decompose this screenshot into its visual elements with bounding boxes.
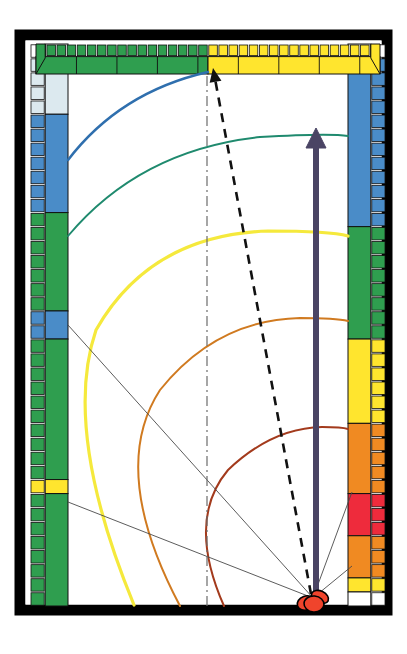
scale-tick-cell [372, 256, 385, 268]
scale-tick-cell [372, 73, 385, 85]
scale-tick-cell [31, 508, 44, 520]
scale-tick-cell [290, 45, 299, 56]
scale-tick-cell [199, 45, 208, 56]
scale-tick-cell [31, 480, 44, 492]
scale-tick-cell [372, 354, 385, 366]
scale-tick-cell [31, 115, 44, 127]
scale-tick-cell [372, 171, 385, 183]
scale-tick-cell [31, 129, 44, 141]
scale-tick-cell [372, 185, 385, 197]
scale-tick-cell [372, 494, 385, 506]
scale-face-segment [348, 536, 371, 578]
scale-tick-cell [372, 312, 385, 324]
scale-tick-cell [372, 452, 385, 464]
scale-tick-cell [372, 438, 385, 450]
scale-tick-cell [31, 185, 44, 197]
scale-tick-cell [31, 87, 44, 99]
scale-tick-cell [178, 45, 187, 56]
scale-tick-cell [372, 270, 385, 282]
scale-tick-cell [31, 270, 44, 282]
scale-tick-cell [280, 45, 289, 56]
scale-tick-cell [372, 396, 385, 408]
scale-tick-cell [31, 368, 44, 380]
scale-tick-cell [372, 480, 385, 492]
scale-tick-cell [372, 340, 385, 352]
scale-tick-cell [98, 45, 107, 56]
scale-tick-cell [31, 396, 44, 408]
scale-tick-cell [310, 45, 319, 56]
scale-face-segment [45, 494, 68, 606]
scale-tick-cell [31, 565, 44, 577]
scale-tick-cell [372, 242, 385, 254]
scale-tick-cell [372, 565, 385, 577]
scale-tick-cell [372, 284, 385, 296]
scale-tick-cell [31, 256, 44, 268]
scale-tick-cell [209, 45, 218, 56]
scale-tick-cell [372, 537, 385, 549]
scale-tick-cell [31, 340, 44, 352]
scale-tick-cell [270, 45, 279, 56]
scale-tick-cell [128, 45, 137, 56]
scale-tick-cell [361, 45, 370, 56]
scale-tick-cell [31, 551, 44, 563]
scale-tick-cell [31, 284, 44, 296]
scale-tick-cell [31, 326, 44, 338]
scale-tick-cell [372, 593, 385, 605]
scale-tick-cell [372, 143, 385, 155]
scale-tick-cell [31, 523, 44, 535]
scale-tick-cell [350, 45, 359, 56]
scale-tick-cell [372, 129, 385, 141]
scale-face-segment [348, 578, 371, 592]
scale-tick-cell [31, 298, 44, 310]
scale-tick-cell [67, 45, 76, 56]
scale-tick-cell [108, 45, 117, 56]
scale-tick-cell [31, 424, 44, 436]
scale-tick-cell [31, 157, 44, 169]
scale-tick-cell [330, 45, 339, 56]
scale-tick-cell [320, 45, 329, 56]
scale-tick-cell [31, 227, 44, 239]
scale-tick-cell [168, 45, 177, 56]
scale-face-segment [45, 213, 68, 311]
scale-tick-cell [31, 579, 44, 591]
scale-tick-cell [372, 101, 385, 113]
scale-tick-cell [340, 45, 349, 56]
scale-tick-cell [31, 242, 44, 254]
interior-area [26, 41, 382, 605]
scale-face-segment [45, 114, 68, 212]
scale-tick-cell [31, 410, 44, 422]
scale-tick-cell [31, 312, 44, 324]
scale-tick-cell [229, 45, 238, 56]
figure-canvas [0, 0, 407, 654]
scale-face-segment [348, 58, 371, 227]
scale-tick-cell [259, 45, 268, 56]
scale-tick-cell [189, 45, 198, 56]
scale-tick-cell [372, 227, 385, 239]
scale-tick-cell [31, 101, 44, 113]
scale-tick-cell [372, 382, 385, 394]
scale-tick-cell [31, 213, 44, 225]
scale-tick-cell [31, 354, 44, 366]
scale-face-segment [45, 311, 68, 339]
scale-tick-cell [31, 466, 44, 478]
scale-tick-cell [31, 593, 44, 605]
scale-face-segment [348, 423, 371, 493]
scale-face-segment [348, 227, 371, 339]
scale-tick-cell [118, 45, 127, 56]
scale-tick-cell [372, 410, 385, 422]
scale-tick-cell [87, 45, 96, 56]
scale-tick-cell [372, 466, 385, 478]
scale-tick-cell [57, 45, 66, 56]
scale-tick-cell [219, 45, 228, 56]
scale-face-segment [36, 57, 208, 74]
scale-face-segment [348, 339, 371, 423]
scale-tick-cell [372, 213, 385, 225]
scale-face-segment [45, 480, 68, 494]
propagation-diagram [0, 0, 407, 654]
scale-tick-cell [372, 579, 385, 591]
scale-tick-cell [138, 45, 147, 56]
scale-tick-cell [31, 199, 44, 211]
scale-tick-cell [158, 45, 167, 56]
scale-tick-cell [372, 508, 385, 520]
scale-tick-cell [31, 537, 44, 549]
